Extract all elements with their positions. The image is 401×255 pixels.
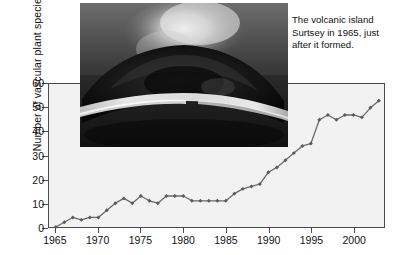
- y-tick-label: 10: [32, 198, 44, 210]
- y-tick-label: 60: [32, 77, 44, 89]
- x-tick-label: 1975: [129, 234, 152, 246]
- data-point-marker: [309, 142, 313, 146]
- y-tick-label: 20: [32, 174, 44, 186]
- x-tick-mark: [55, 228, 56, 233]
- data-point-marker: [88, 215, 92, 219]
- x-tick-label: 1980: [171, 234, 194, 246]
- x-tick-label: 1965: [43, 234, 66, 246]
- y-tick-label: 30: [32, 150, 44, 162]
- photo-caption: The volcanic island Surtsey in 1965, jus…: [292, 14, 400, 52]
- x-tick-mark: [140, 228, 141, 233]
- y-tick-label: 0: [38, 222, 44, 234]
- data-point-marker: [249, 185, 253, 189]
- surtsey-aerial-photo: [80, 3, 288, 147]
- data-point-marker: [215, 199, 219, 203]
- data-point-marker: [207, 199, 211, 203]
- x-tick-mark: [226, 228, 227, 233]
- x-tick-label: 1970: [86, 234, 109, 246]
- y-tick-label: 50: [32, 101, 44, 113]
- photo-graphic: [80, 3, 288, 147]
- data-point-marker: [79, 218, 83, 222]
- x-tick-mark: [354, 228, 355, 233]
- y-tick-label: 40: [32, 125, 44, 137]
- data-point-marker: [173, 194, 177, 198]
- x-tick-mark: [183, 228, 184, 233]
- x-axis-ticks: 19651970197519801985199019952000: [48, 228, 385, 254]
- x-tick-label: 1985: [214, 234, 237, 246]
- x-tick-mark: [98, 228, 99, 233]
- y-axis-ticks: 0102030405060: [0, 83, 48, 228]
- data-point-marker: [351, 113, 355, 117]
- x-tick-label: 1990: [257, 234, 280, 246]
- x-tick-mark: [269, 228, 270, 233]
- x-tick-mark: [311, 228, 312, 233]
- x-tick-label: 1995: [300, 234, 323, 246]
- data-point-marker: [198, 199, 202, 203]
- x-tick-label: 2000: [343, 234, 366, 246]
- figure-surtsey-plant-colonization: Number of vascular plant species 0102030…: [0, 0, 401, 255]
